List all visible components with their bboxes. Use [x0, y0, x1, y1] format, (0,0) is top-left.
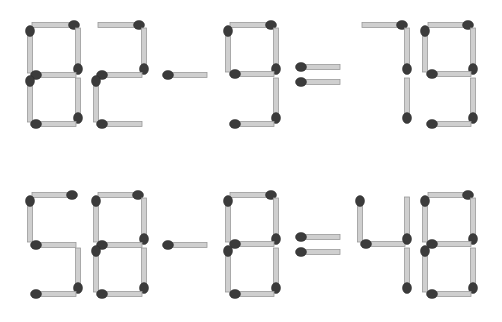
symbol-digit-5 [26, 191, 83, 299]
matchstick-body [274, 198, 279, 239]
matchstick[interactable] [74, 78, 83, 124]
matchstick-head-icon [230, 70, 241, 79]
matchstick[interactable] [26, 76, 35, 123]
symbol-equals [296, 233, 341, 257]
matchstick[interactable] [427, 290, 472, 299]
matchstick[interactable] [163, 241, 208, 250]
matchstick[interactable] [140, 198, 149, 245]
symbol-digit-8 [224, 191, 281, 299]
matchstick[interactable] [230, 290, 275, 299]
matchstick-body [36, 243, 76, 248]
matchstick[interactable] [31, 71, 77, 80]
matchstick[interactable] [97, 241, 143, 250]
matchstick[interactable] [74, 248, 83, 294]
matchstick-body [102, 243, 142, 248]
matchstick[interactable] [272, 78, 281, 124]
matchstick-body [102, 73, 142, 78]
matchstick[interactable] [469, 78, 478, 124]
matchstick[interactable] [421, 26, 430, 73]
matchstick-head-icon [67, 191, 78, 200]
matchstick[interactable] [421, 196, 430, 243]
matchstick[interactable] [469, 28, 478, 75]
matchstick[interactable] [296, 63, 341, 72]
matchstick-head-icon [163, 241, 174, 250]
matchstick-body [405, 28, 410, 69]
matchstick-body [36, 73, 76, 78]
matchstick[interactable] [163, 71, 208, 80]
matchstick[interactable] [421, 246, 430, 293]
matchstick-body [76, 78, 81, 118]
matchstick-head-icon [92, 246, 101, 257]
matchstick[interactable] [362, 21, 408, 30]
matchstick-body [230, 193, 271, 198]
matchstick[interactable] [356, 196, 365, 243]
matchstick[interactable] [92, 76, 101, 123]
matchstick[interactable] [403, 28, 412, 75]
matchstick[interactable] [92, 196, 101, 243]
matchstick[interactable] [469, 248, 478, 294]
matchstick[interactable] [403, 197, 412, 245]
matchstick[interactable] [427, 120, 472, 129]
matchstick[interactable] [230, 240, 275, 249]
matchstick[interactable] [230, 70, 275, 79]
matchstick[interactable] [230, 191, 277, 200]
matchstick[interactable] [230, 120, 275, 129]
matchstick-body [405, 197, 410, 239]
matchstick-head-icon [230, 290, 241, 299]
matchstick[interactable] [428, 21, 474, 30]
matchstick[interactable] [403, 78, 412, 124]
matchstick[interactable] [26, 196, 35, 243]
matchstick[interactable] [224, 246, 233, 293]
matchstick[interactable] [26, 26, 35, 74]
matchstick[interactable] [272, 248, 281, 294]
matchstick[interactable] [98, 21, 145, 30]
matchstick-body [301, 65, 340, 70]
matchstick-body [274, 28, 279, 69]
matchstick[interactable] [361, 240, 406, 249]
matchstick-head-icon [427, 290, 438, 299]
matchstick-body [301, 80, 340, 85]
matchstick-head-icon [427, 120, 438, 129]
matchstick[interactable] [296, 78, 341, 87]
matchstick[interactable] [97, 120, 143, 129]
matchstick[interactable] [469, 198, 478, 245]
matchstick[interactable] [296, 233, 341, 242]
matchstick[interactable] [32, 191, 78, 200]
matchstick[interactable] [31, 290, 77, 299]
matchstick[interactable] [272, 28, 281, 75]
matchstick-head-icon [403, 64, 412, 75]
matchstick[interactable] [32, 21, 80, 30]
matchstick[interactable] [224, 196, 233, 243]
matchstick-body [98, 23, 139, 28]
matchstick[interactable] [31, 241, 77, 250]
matchstick-head-icon [92, 196, 101, 207]
matchstick-body [28, 81, 33, 122]
matchstick-body [226, 201, 231, 242]
matchstick[interactable] [428, 191, 474, 200]
matchstick[interactable] [296, 248, 341, 257]
matchstick-body [428, 193, 468, 198]
matchstick[interactable] [140, 28, 149, 75]
matchstick[interactable] [427, 70, 472, 79]
matchstick[interactable] [140, 248, 149, 294]
matchstick[interactable] [31, 120, 77, 129]
matchstick[interactable] [97, 71, 143, 80]
matchstick[interactable] [272, 198, 281, 245]
matchstick-head-icon [296, 233, 307, 242]
matchstick[interactable] [98, 191, 144, 200]
matchstick[interactable] [92, 246, 101, 293]
matchstick-body [226, 251, 231, 292]
matchstick[interactable] [230, 21, 277, 30]
matchstick[interactable] [97, 290, 143, 299]
matchstick[interactable] [74, 28, 83, 75]
matchstick-body [274, 78, 279, 118]
matchstick-body [362, 23, 402, 28]
matchstick-head-icon [296, 248, 307, 257]
matchstick[interactable] [403, 248, 412, 294]
matchstick[interactable] [427, 240, 472, 249]
matchstick-head-icon [26, 76, 35, 87]
matchstick-body [235, 242, 274, 247]
matchstick-body [235, 122, 274, 127]
matchstick-body [226, 31, 231, 72]
matchstick[interactable] [224, 26, 233, 73]
